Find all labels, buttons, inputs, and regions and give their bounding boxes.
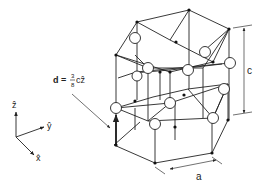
dimension-c: c bbox=[233, 25, 252, 115]
coordinate-axes: ẑ ŷ x̂ bbox=[12, 100, 52, 163]
svg-text:8: 8 bbox=[71, 82, 75, 88]
lattice-a-label: a bbox=[196, 171, 202, 182]
label-pointer-line bbox=[72, 94, 110, 128]
svg-text:3: 3 bbox=[71, 73, 75, 79]
axis-y-label: ŷ bbox=[47, 121, 52, 131]
crystal-diagram: c a d = 3 8 cẑ ẑ ŷ x̂ bbox=[0, 0, 265, 187]
svg-text:cẑ: cẑ bbox=[76, 75, 86, 85]
svg-text:d =: d = bbox=[53, 75, 66, 85]
small-atoms bbox=[114, 8, 230, 164]
axis-z-label: ẑ bbox=[12, 100, 17, 110]
dimension-a: a bbox=[155, 157, 222, 182]
lattice-c-label: c bbox=[247, 65, 252, 76]
axis-x-label: x̂ bbox=[36, 153, 41, 163]
displacement-label: d = 3 8 cẑ bbox=[53, 73, 86, 88]
